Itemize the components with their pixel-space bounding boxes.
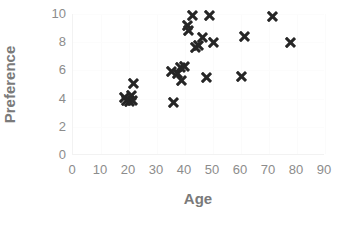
y-axis-tick-label: 4: [26, 91, 66, 107]
y-axis-title: Preference: [0, 14, 20, 155]
gridline-vertical: [101, 14, 102, 154]
y-axis-tick-label: 8: [26, 34, 66, 50]
plot-area: [72, 14, 324, 155]
y-axis-title-text: Preference: [2, 46, 19, 124]
y-axis-tick-label: 2: [26, 119, 66, 135]
y-axis-tick-label: 0: [26, 147, 66, 163]
gridline-vertical: [241, 14, 242, 154]
x-axis-tick-label: 90: [304, 162, 344, 178]
gridline-vertical: [185, 14, 186, 154]
gridline-horizontal: [73, 14, 324, 15]
gridline-vertical: [297, 14, 298, 154]
y-axis-tick-label: 10: [26, 6, 66, 22]
gridline-vertical: [213, 14, 214, 154]
x-axis-title: Age: [72, 190, 324, 207]
y-axis-tick-label: 6: [26, 62, 66, 78]
gridline-horizontal: [73, 127, 324, 128]
gridline-vertical: [157, 14, 158, 154]
scatter-chart: 01020304050607080900246810 Age Preferenc…: [0, 0, 347, 225]
gridline-vertical: [325, 14, 326, 154]
gridline-horizontal: [73, 99, 324, 100]
gridline-horizontal: [73, 42, 324, 43]
gridline-horizontal: [73, 70, 324, 71]
gridline-vertical: [129, 14, 130, 154]
gridline-vertical: [269, 14, 270, 154]
